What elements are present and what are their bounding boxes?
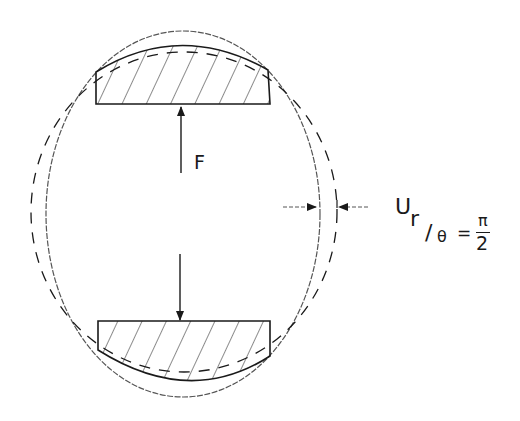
ring-compression-diagram: [0, 0, 520, 421]
equals-sign: =: [457, 225, 471, 242]
displacement-subscript-slash: /: [425, 222, 432, 244]
displacement-symbol: U: [395, 196, 411, 218]
top-loading-block: [96, 45, 270, 104]
fraction-denominator: 2: [476, 234, 488, 253]
fraction-numerator: π: [478, 213, 488, 229]
force-label: F: [194, 153, 205, 172]
displacement-subscript-r: r: [410, 208, 419, 230]
bottom-loading-block: [98, 321, 270, 381]
displacement-subscript-theta: θ: [437, 229, 447, 245]
